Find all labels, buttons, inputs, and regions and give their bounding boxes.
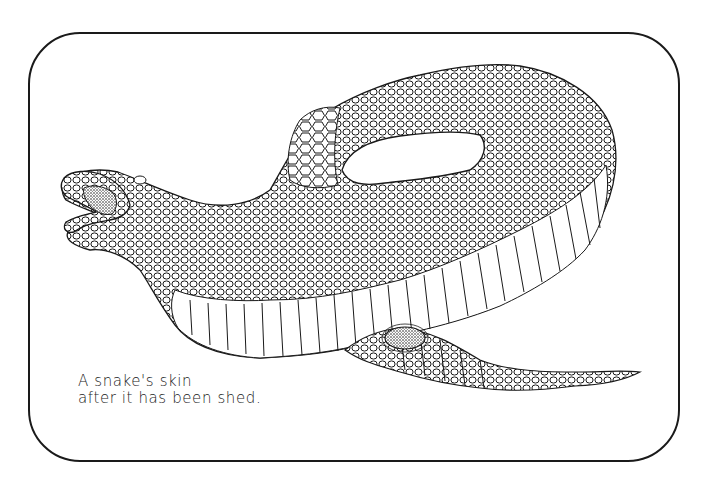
eye-cap (134, 176, 146, 184)
snake-skin-drawing (0, 0, 708, 493)
shed-eye-cap (385, 327, 425, 349)
caption: A snake's skin after it has been shed. (78, 373, 261, 407)
loop-large-scales (288, 107, 340, 188)
caption-line-2: after it has been shed. (78, 390, 261, 407)
caption-line-1: A snake's skin (78, 373, 261, 390)
